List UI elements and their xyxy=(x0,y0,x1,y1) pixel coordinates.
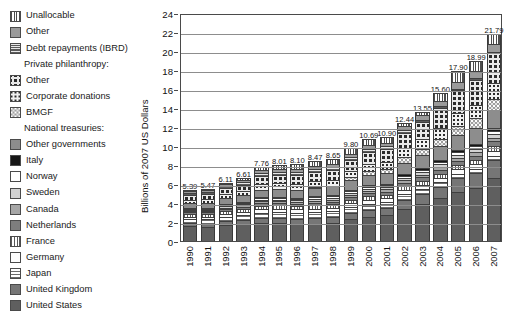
legend-label: Corporate donations xyxy=(26,92,110,101)
y-axis-tick-label: 10 xyxy=(162,142,173,153)
legend-label: France xyxy=(26,237,55,246)
bar-segment-debt-repayments-ibrd xyxy=(416,120,428,122)
stacked-bar[interactable] xyxy=(380,137,394,241)
chart-area: Billions of 2007 US Dollars 024681012141… xyxy=(139,6,505,318)
bar-group-1990[interactable] xyxy=(183,13,197,241)
x-axis-tick-label-1999: 1999 xyxy=(344,246,355,267)
bar-segment-japan xyxy=(452,174,464,178)
y-axis-tick-mark xyxy=(174,52,178,53)
bar-group-1992[interactable] xyxy=(219,13,233,241)
bar-segment-debt-repayments-ibrd xyxy=(255,173,267,176)
bar-group-2000[interactable] xyxy=(362,13,376,241)
stacked-bar[interactable] xyxy=(236,178,250,241)
stacked-bar[interactable] xyxy=(362,139,376,241)
bar-segment-corporate-donations xyxy=(237,191,249,195)
chart-legend: UnallocableOtherDebt repayments (IBRD)Pr… xyxy=(10,8,140,314)
bar-segment-netherlands xyxy=(470,156,482,160)
legend-swatch-sweden-icon xyxy=(10,188,21,199)
bar-group-1993[interactable] xyxy=(236,13,250,241)
stacked-bar[interactable] xyxy=(487,34,501,241)
bar-segment-japan xyxy=(470,169,482,173)
bar-segment-private-philanthropy-other xyxy=(309,172,321,182)
bar-segment-germany xyxy=(202,217,214,220)
x-axis-tick-label-1998: 1998 xyxy=(327,246,338,267)
stacked-bar[interactable] xyxy=(290,164,304,241)
bar-segment-canada xyxy=(291,202,303,204)
bar-segment-sweden xyxy=(398,178,410,180)
bar-segment-japan xyxy=(345,207,357,213)
stacked-bar[interactable] xyxy=(451,71,465,241)
legend-label: Germany xyxy=(26,253,64,262)
y-axis-tick-mark xyxy=(174,14,178,15)
bar-segment-sweden xyxy=(381,187,393,189)
bar-group-1999[interactable] xyxy=(344,13,358,241)
bar-group-1994[interactable] xyxy=(254,13,268,241)
bar-segment-italy xyxy=(202,208,214,209)
bar-segment-other xyxy=(237,180,249,182)
bar-segment-italy xyxy=(327,195,339,196)
bar-segment-corporate-donations xyxy=(202,199,214,203)
bar-group-1998[interactable] xyxy=(326,13,340,241)
bar-segment-other-governments xyxy=(309,188,321,196)
bar-segment-other xyxy=(291,169,303,172)
y-axis-title: Billions of 2007 US Dollars xyxy=(139,82,153,230)
stacked-bar[interactable] xyxy=(469,61,483,241)
bar-group-2007[interactable] xyxy=(487,13,501,241)
bar-group-1996[interactable] xyxy=(290,13,304,241)
bar-group-1991[interactable] xyxy=(201,13,215,241)
bar-segment-netherlands xyxy=(381,192,393,195)
bar-group-1995[interactable] xyxy=(272,13,286,241)
bar-segment-debt-repayments-ibrd xyxy=(291,172,303,175)
bar-group-1997[interactable] xyxy=(308,13,322,241)
bar-group-2001[interactable] xyxy=(380,13,394,241)
bar-segment-norway xyxy=(327,196,339,198)
legend-item-netherlands: Netherlands xyxy=(10,217,140,233)
bar-segment-sweden xyxy=(291,200,303,202)
bar-segment-italy xyxy=(291,198,303,199)
bar-value-label: 6.61 xyxy=(236,170,251,179)
y-axis-tick-mark xyxy=(174,166,178,167)
stacked-bar[interactable] xyxy=(326,159,340,241)
bar-group-2004[interactable] xyxy=(433,13,447,241)
legend-swatch-united-states-icon xyxy=(10,300,21,311)
bar-segment-italy xyxy=(184,208,196,209)
bar-segment-private-philanthropy-other xyxy=(398,133,410,148)
bar-segment-bmgf xyxy=(434,139,446,146)
bar-group-2003[interactable] xyxy=(415,13,429,241)
bar-segment-netherlands xyxy=(363,193,375,196)
stacked-bar[interactable] xyxy=(219,183,233,241)
bar-segment-united-kingdom xyxy=(327,217,339,223)
bar-segment-germany xyxy=(309,209,321,213)
stacked-bar[interactable] xyxy=(183,190,197,241)
bar-segment-canada xyxy=(184,211,196,212)
stacked-bar[interactable] xyxy=(415,112,429,241)
bar-segment-italy xyxy=(452,150,464,152)
bar-segment-other-governments xyxy=(273,189,285,197)
bar-segment-japan xyxy=(309,212,321,218)
bar-segment-united-states xyxy=(309,224,321,241)
bar-segment-germany xyxy=(434,178,446,182)
stacked-bar[interactable] xyxy=(272,165,286,241)
bar-segment-unallocable xyxy=(488,34,500,44)
y-axis-tick-label: 12 xyxy=(162,123,173,134)
gridline xyxy=(181,53,501,54)
bar-group-2005[interactable] xyxy=(451,13,465,241)
legend-label: Other xyxy=(26,27,49,36)
legend-swatch-france-icon xyxy=(10,236,21,247)
stacked-bar[interactable] xyxy=(344,148,358,241)
bar-group-2002[interactable] xyxy=(397,13,411,241)
legend-item-national-treasuries: National treasuries: xyxy=(10,121,140,137)
stacked-bar[interactable] xyxy=(201,189,215,241)
legend-label: Canada xyxy=(26,205,59,214)
bar-segment-japan xyxy=(291,213,303,219)
bar-group-2006[interactable] xyxy=(469,13,483,241)
stacked-bar[interactable] xyxy=(308,161,322,241)
bar-segment-norway xyxy=(184,209,196,210)
bar-segment-germany xyxy=(452,169,464,174)
y-axis-tick-mark xyxy=(174,90,178,91)
bar-segment-united-kingdom xyxy=(309,218,321,223)
bar-segment-italy xyxy=(309,196,321,197)
legend-label: Netherlands xyxy=(26,221,76,230)
bar-segment-canada xyxy=(363,191,375,193)
bar-segment-norway xyxy=(398,176,410,178)
